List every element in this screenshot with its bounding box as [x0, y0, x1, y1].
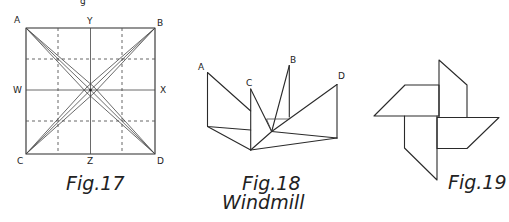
fig17-diagonal-a [26, 28, 94, 93]
fig18-blade-c-edge [251, 89, 272, 132]
fig17-diagonal-b [87, 28, 155, 93]
fig17-center-point [89, 89, 92, 92]
fig18-label-a: A [198, 62, 205, 72]
fig18-blade-a-edge [208, 73, 251, 112]
fig17-diagonal-c [26, 87, 94, 154]
fig17-label-c: C [17, 156, 23, 166]
fig18-blade-b-inner [267, 119, 272, 132]
fig19-blade-top [439, 60, 467, 117]
fig19-blade-right [437, 118, 499, 149]
fig18-blade-d-edge [272, 85, 337, 132]
fig19-blade-left [374, 85, 439, 116]
fig17-caption: Fig.17 [66, 172, 124, 194]
fig18-blade-a-base [208, 73, 251, 131]
fig17-label-b: B [157, 18, 163, 28]
fig18-label-b: B [290, 55, 296, 65]
fig17-label-w: W [13, 85, 22, 95]
fig18-blade-b-edge [272, 66, 290, 132]
fig18-windmill-diagram: A C B D Fig.18 Windmill [198, 55, 345, 213]
fig18-base-right [251, 138, 337, 150]
fig17-diagonal-d [87, 87, 155, 154]
fig18-label-c: C [246, 78, 252, 88]
fig19-blade-bottom [405, 116, 438, 180]
fig18-blade-d-top-fold [272, 132, 337, 139]
fig17-square-diagram: A Y B W X C Z D Fig.17 [13, 15, 166, 194]
fig17-label-y: Y [86, 16, 93, 26]
fig17-label-z: Z [87, 156, 93, 166]
fig19-pinwheel-diagram: Fig.19 [374, 60, 506, 193]
fig17-label-a: A [14, 15, 21, 25]
fig17-label-x: X [160, 85, 166, 95]
fig18-label-d: D [338, 71, 345, 81]
diagram-canvas: g A Y [0, 0, 509, 222]
fig19-caption: Fig.19 [448, 171, 506, 193]
top-text-fragment: g [80, 0, 86, 6]
fig17-label-d: D [157, 156, 164, 166]
fig18-subcaption: Windmill [222, 191, 305, 213]
